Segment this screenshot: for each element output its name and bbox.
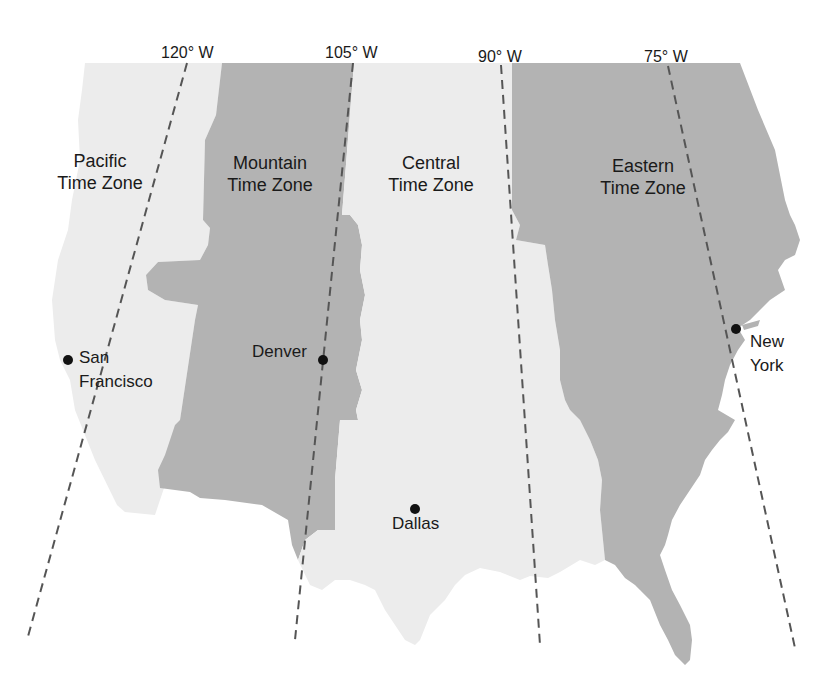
zone-label-eastern-line2: Time Zone	[588, 177, 698, 199]
city-marker-san-francisco	[63, 355, 73, 365]
time-zone-map	[0, 0, 839, 681]
city-label-san-francisco-line2: Francisco	[79, 370, 153, 394]
zone-label-eastern: Eastern Time Zone	[588, 155, 698, 199]
city-marker-denver	[318, 355, 328, 365]
meridian-label-105w: 105° W	[325, 44, 378, 62]
zone-label-mountain-line1: Mountain	[215, 152, 325, 174]
zone-label-mountain: Mountain Time Zone	[215, 152, 325, 196]
zone-label-mountain-line2: Time Zone	[215, 174, 325, 196]
city-marker-new-york	[731, 324, 741, 334]
city-label-denver-line1: Denver	[252, 340, 307, 364]
city-label-dallas-line1: Dallas	[392, 512, 439, 536]
meridian-label-90w: 90° W	[478, 48, 522, 66]
city-label-san-francisco: San Francisco	[79, 346, 153, 394]
city-label-dallas: Dallas	[392, 512, 439, 536]
zone-label-eastern-line1: Eastern	[588, 155, 698, 177]
zone-label-central-line1: Central	[376, 152, 486, 174]
city-label-san-francisco-line1: San	[79, 346, 153, 370]
meridian-label-120w: 120° W	[161, 44, 214, 62]
zone-label-central-line2: Time Zone	[376, 174, 486, 196]
zone-label-pacific-line1: Pacific	[45, 150, 155, 172]
meridian-label-75w: 75° W	[644, 48, 688, 66]
zone-label-pacific-line2: Time Zone	[45, 172, 155, 194]
city-label-denver: Denver	[252, 340, 307, 364]
zone-label-central: Central Time Zone	[376, 152, 486, 196]
city-label-new-york-line2: York	[750, 354, 784, 378]
city-label-new-york: New York	[750, 330, 784, 378]
zone-label-pacific: Pacific Time Zone	[45, 150, 155, 194]
city-label-new-york-line1: New	[750, 330, 784, 354]
